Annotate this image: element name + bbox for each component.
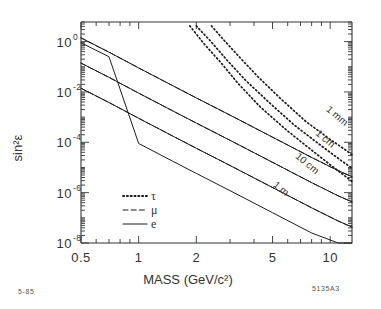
y-tick-label-0: 100 xyxy=(57,32,79,50)
annotation-1: 1 cm xyxy=(314,127,338,149)
scientific-plot: 1 mm1 cm10 cm1 m 10010-210-410-610-8 0.5… xyxy=(0,0,381,309)
y-tick-label-2: 10-4 xyxy=(57,132,82,150)
x-axis-title: MASS (GeV/c²) xyxy=(143,272,233,287)
annotation-0: 1 mm xyxy=(324,103,350,127)
svg-text:10: 10 xyxy=(57,85,72,100)
svg-text:10: 10 xyxy=(57,236,72,251)
figure-id-stamp: 5135A3 xyxy=(312,285,340,292)
curve-mu-1cm xyxy=(81,63,352,202)
svg-text:-6: -6 xyxy=(73,183,82,193)
y-tick-label-4: 10-8 xyxy=(57,233,82,251)
curve-annotations: 1 mm1 cm10 cm1 m xyxy=(271,103,350,198)
x-tick-label-4: 10 xyxy=(322,250,337,265)
data-curves xyxy=(81,26,352,243)
y-tick-label-3: 10-6 xyxy=(57,183,82,201)
svg-text:10: 10 xyxy=(57,35,72,50)
plot-frame xyxy=(81,22,352,243)
svg-text:-8: -8 xyxy=(73,233,82,243)
legend-label-2: e xyxy=(151,217,156,231)
legend: τμe xyxy=(123,189,157,231)
figure-container: 1 mm1 cm10 cm1 m 10010-210-410-610-8 0.5… xyxy=(0,0,381,309)
y-axis-title: sin²ε xyxy=(10,134,25,161)
axis-ticks xyxy=(81,22,352,243)
curve-e-1m xyxy=(81,43,352,243)
annotation-2: 10 cm xyxy=(293,150,321,176)
x-tick-label-2: 2 xyxy=(192,250,200,265)
svg-text:10: 10 xyxy=(57,186,72,201)
legend-label-0: τ xyxy=(151,189,156,203)
svg-text:sin²ε: sin²ε xyxy=(10,134,25,161)
svg-text:0: 0 xyxy=(73,32,78,42)
svg-text:-4: -4 xyxy=(73,132,82,142)
x-tick-label-3: 5 xyxy=(269,250,277,265)
y-tick-labels: 10010-210-410-610-8 xyxy=(57,32,82,251)
svg-text:-2: -2 xyxy=(73,82,82,92)
x-tick-label-0: 0.5 xyxy=(71,250,91,265)
x-tick-labels: 0.512510 xyxy=(71,250,338,265)
x-tick-label-1: 1 xyxy=(135,250,143,265)
legend-label-1: μ xyxy=(151,203,157,217)
svg-text:10: 10 xyxy=(57,135,72,150)
y-tick-label-1: 10-2 xyxy=(57,82,82,100)
svg-text:MASS (GeV/c²): MASS (GeV/c²) xyxy=(143,272,233,287)
date-stamp: 5-85 xyxy=(18,288,34,295)
